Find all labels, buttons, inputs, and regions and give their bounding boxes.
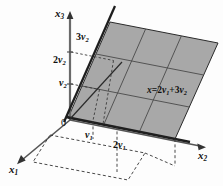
- origin-label: 0: [61, 118, 66, 128]
- axis-label-x1: x1: [9, 164, 18, 177]
- tick-label-v2: v2: [59, 78, 67, 89]
- axis-label-x3: x3: [55, 8, 64, 21]
- figure-canvas: [0, 0, 223, 186]
- tick-label-2v1: 2v1: [113, 140, 126, 151]
- axis-label-x2: x2: [198, 150, 207, 163]
- tick-label-2v2: 2v2: [53, 55, 66, 66]
- tick-label-3v2: 3v2: [76, 32, 89, 43]
- axis-x3-arrowhead: [67, 11, 74, 19]
- vector-plane-figure: x3 x2 x1 0 3v2 2v2 v2 v1 2v1 x=2v1+3v2: [0, 0, 223, 186]
- tick-label-v1: v1: [85, 130, 93, 141]
- axis-x1-arrowhead: [17, 155, 26, 164]
- equation-annotation: x=2v1+3v2: [147, 86, 187, 96]
